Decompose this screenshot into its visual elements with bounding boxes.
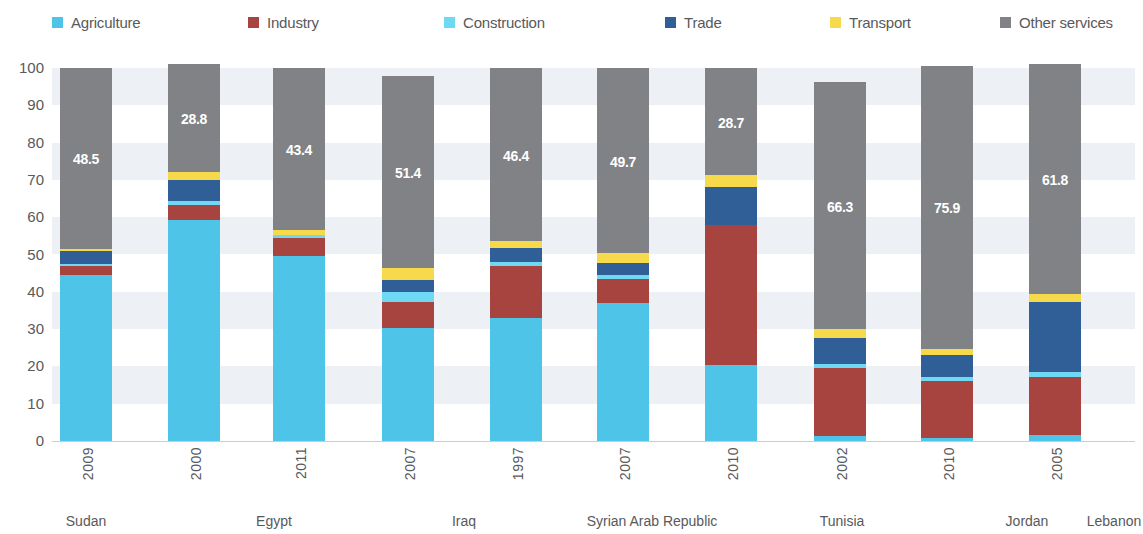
- x-axis-country-label: Iraq: [452, 513, 476, 529]
- bar-segment-agriculture: [60, 275, 112, 441]
- bar-segment-transport: [382, 268, 434, 280]
- bar-segment-construction: [921, 377, 973, 381]
- bar-segment-transport: [1029, 294, 1081, 302]
- bar-segment-industry: [921, 381, 973, 438]
- y-axis-tick-label: 10: [4, 396, 44, 411]
- legend-label: Transport: [849, 14, 911, 31]
- bar-segment-agriculture: [597, 303, 649, 441]
- y-axis-tick-label: 60: [4, 209, 44, 224]
- bar-value-label: 75.9: [921, 200, 973, 216]
- bar-segment-construction: [814, 364, 866, 368]
- bar-segment-transport: [921, 349, 973, 355]
- x-axis-country-label: Tunisia: [820, 513, 865, 529]
- legend-swatch-agriculture-icon: [52, 17, 63, 28]
- bar-segment-industry: [168, 205, 220, 220]
- legend-item-other-services: Other services: [1000, 14, 1113, 31]
- bar-segment-industry: [1029, 377, 1081, 435]
- y-axis-tick-label: 40: [4, 284, 44, 299]
- x-axis-year-label: 2007: [402, 447, 418, 480]
- bar-segment-transport: [597, 253, 649, 262]
- x-axis-country-label: Jordan: [1006, 513, 1049, 529]
- x-axis-year-label: 2005: [1049, 447, 1065, 480]
- bar-segment-trade: [597, 263, 649, 275]
- bar-segment-transport: [273, 230, 325, 235]
- bar-segment-construction: [597, 275, 649, 279]
- bar-segment-construction: [382, 292, 434, 302]
- bar-segment-trade: [168, 180, 220, 201]
- bar-segment-trade: [1029, 302, 1081, 372]
- bar-segment-industry: [597, 279, 649, 303]
- bar-iraq-2007: 51.4: [382, 68, 434, 441]
- x-axis-country-label: Syrian Arab Republic: [587, 513, 718, 529]
- bar-value-label: 51.4: [382, 165, 434, 181]
- bar-segment-industry: [490, 266, 542, 318]
- legend-swatch-other-icon: [1000, 17, 1011, 28]
- bar-segment-trade: [490, 248, 542, 262]
- bar-segment-agriculture: [168, 220, 220, 441]
- x-axis-year-label: 2007: [617, 447, 633, 480]
- bar-syrian-arab-republic-1997: 46.4: [490, 68, 542, 441]
- legend-label: Construction: [463, 14, 545, 31]
- legend-item-construction: Construction: [444, 14, 545, 31]
- y-axis-tick-label: 90: [4, 97, 44, 112]
- bar-segment-trade: [814, 338, 866, 364]
- bar-segment-agriculture: [705, 365, 757, 441]
- x-axis-year-label: 2010: [725, 447, 741, 480]
- legend-label: Industry: [267, 14, 319, 31]
- legend-label: Trade: [684, 14, 722, 31]
- bar-segment-trade: [60, 251, 112, 264]
- legend-label: Agriculture: [71, 14, 141, 31]
- x-axis-year-label: 2011: [293, 447, 309, 479]
- bar-segment-transport: [490, 241, 542, 248]
- y-axis-tick-label: 0: [4, 433, 44, 448]
- bar-segment-industry: [60, 266, 112, 275]
- bar-value-label: 28.8: [168, 111, 220, 127]
- y-axis-tick-label: 80: [4, 135, 44, 150]
- bar-segment-trade: [705, 187, 757, 225]
- bar-segment-transport: [168, 172, 220, 180]
- x-axis-country-label: Lebanon: [1087, 513, 1142, 529]
- x-axis: 2009200020112007199720072010200220102005…: [52, 441, 1135, 534]
- bar-value-label: 61.8: [1029, 172, 1081, 188]
- bar-syrian-arab-republic-2007: 49.7: [597, 68, 649, 441]
- bar-segment-construction: [1029, 372, 1081, 377]
- bar-lebanon-2005: 61.8: [1029, 68, 1081, 441]
- x-axis-country-label: Sudan: [66, 513, 106, 529]
- x-axis-year-label: 1997: [510, 447, 526, 480]
- bar-segment-trade: [921, 355, 973, 377]
- y-axis-tick-label: 70: [4, 172, 44, 187]
- bar-segment-transport: [705, 175, 757, 187]
- bar-segment-transport: [814, 329, 866, 337]
- bar-value-label: 48.5: [60, 151, 112, 167]
- bar-segment-construction: [168, 201, 220, 205]
- legend-swatch-transport-icon: [830, 17, 841, 28]
- bar-segment-construction: [273, 235, 325, 238]
- plot-area: 1009080706050403020100 48.528.843.451.44…: [52, 68, 1135, 441]
- bar-segment-agriculture: [382, 328, 434, 441]
- bar-egypt-2000: 28.8: [168, 68, 220, 441]
- bar-tunisia-2010: 28.7: [705, 68, 757, 441]
- x-axis-year-label: 2009: [80, 447, 96, 480]
- y-axis-tick-label: 20: [4, 358, 44, 373]
- bar-jordan-2010: 75.9: [921, 68, 973, 441]
- y-axis-tick-label: 30: [4, 321, 44, 336]
- bar-segment-construction: [60, 264, 112, 266]
- legend-label: Other services: [1019, 14, 1113, 31]
- y-axis-tick-label: 100: [4, 60, 44, 75]
- chart-legend: AgricultureIndustryConstructionTradeTran…: [0, 0, 1143, 46]
- bar-segment-industry: [273, 238, 325, 256]
- y-axis-tick-label: 50: [4, 247, 44, 262]
- legend-item-transport: Transport: [830, 14, 911, 31]
- bar-value-label: 49.7: [597, 154, 649, 170]
- bar-segment-transport: [60, 249, 112, 251]
- x-axis-year-label: 2010: [941, 447, 957, 480]
- bar-egypt-2011: 43.4: [273, 68, 325, 441]
- bar-segment-trade: [382, 280, 434, 292]
- bar-segment-construction: [490, 262, 542, 266]
- bar-value-label: 28.7: [705, 115, 757, 131]
- legend-item-trade: Trade: [665, 14, 722, 31]
- bar-sudan-2009: 48.5: [60, 68, 112, 441]
- x-axis-country-label: Egypt: [256, 513, 292, 529]
- bar-segment-industry: [382, 302, 434, 328]
- bar-segment-industry: [814, 368, 866, 436]
